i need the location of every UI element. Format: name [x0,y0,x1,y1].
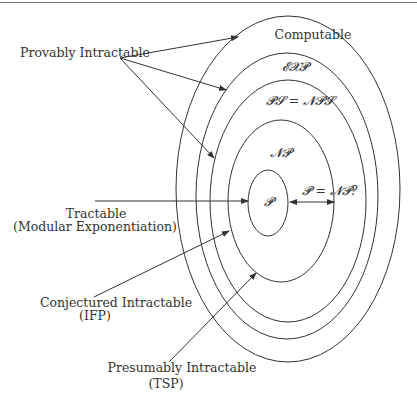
label-p: 𝓟 [264,194,277,209]
label-exp: 𝓔𝓧𝓟 [282,59,312,74]
arrow-provably-exp [120,58,226,90]
label-conjectured-example: (IFP) [79,308,111,323]
complexity-diagram: Computable 𝓔𝓧𝓟 𝓟𝓢 = 𝓝𝓟𝓢 𝓝𝓟 𝓟 𝓟 = 𝓝𝓟? Pro… [0,0,417,410]
label-tractable-example: (Modular Exponentiation) [13,219,177,234]
arrow-conjectured [94,231,229,297]
label-p-equals-np: 𝓟 = 𝓝𝓟? [302,183,357,198]
arrow-presumably [169,273,256,362]
label-conjectured-intractable: Conjectured Intractable [40,295,192,310]
label-provably-intractable: Provably Intractable [20,45,150,60]
label-np: 𝓝𝓟 [270,145,295,160]
label-presumably-example: (TSP) [148,376,183,391]
label-computable: Computable [275,27,352,42]
label-presumably-intractable: Presumably Intractable [108,360,257,375]
arrow-provably-ps [120,58,214,158]
label-ps: 𝓟𝓢 = 𝓝𝓟𝓢 [266,93,338,108]
